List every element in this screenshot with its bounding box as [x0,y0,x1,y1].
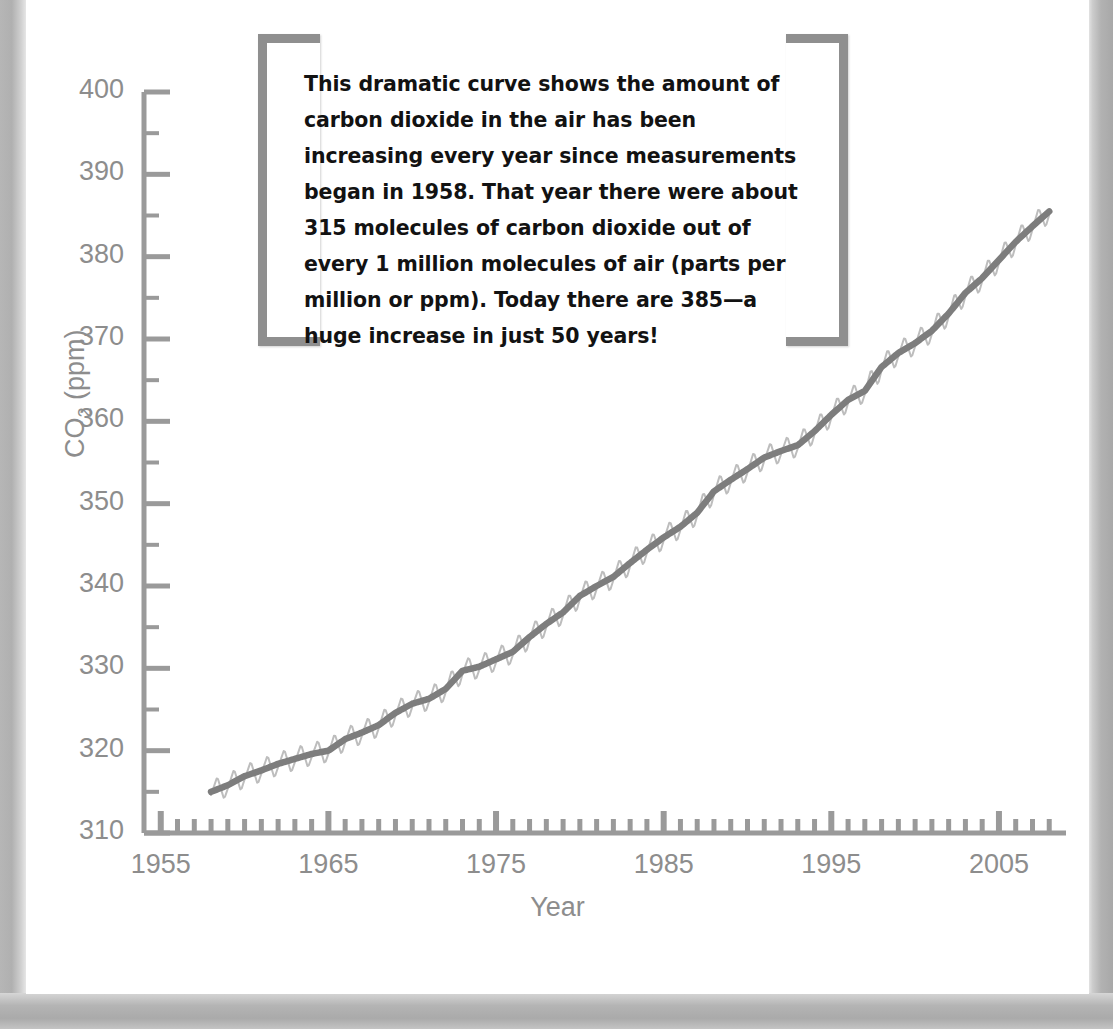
y-tick-label: 400 [32,74,124,105]
callout-text: This dramatic curve shows the amount of … [304,66,814,354]
y-tick-label: 310 [32,815,124,846]
callout-box: This dramatic curve shows the amount of … [258,34,848,346]
y-tick-label: 380 [32,239,124,270]
x-tick-label: 1985 [604,849,724,880]
x-tick-label: 2005 [939,849,1059,880]
page-frame-bottom-inner [26,986,1089,994]
page-frame-left [0,0,26,1029]
y-tick-label: 370 [32,321,124,352]
y-tick-label: 340 [32,568,124,599]
x-tick-label: 1995 [771,849,891,880]
y-tick-label: 350 [32,486,124,517]
x-tick-label: 1975 [436,849,556,880]
y-tick-label: 360 [32,403,124,434]
y-tick-label: 330 [32,650,124,681]
y-tick-label: 390 [32,156,124,187]
x-tick-label: 1955 [101,849,221,880]
page-frame-bottom [0,993,1113,1029]
x-tick-label: 1965 [268,849,388,880]
y-tick-label: 320 [32,733,124,764]
page-frame-right [1089,0,1113,1029]
x-axis-title: Year [26,892,1089,923]
page-root: fossil fuels. CO2 (ppm) Year 31032033034… [0,0,1113,1029]
chart-figure: CO2 (ppm) Year 3103203303403503603703803… [26,0,1089,986]
